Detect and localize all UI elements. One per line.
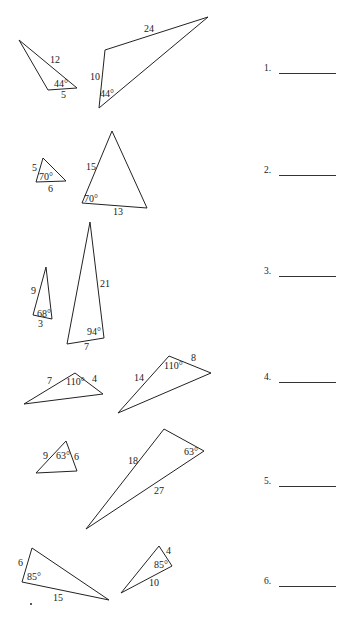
triangle-1a: 1244°5 — [19, 40, 77, 100]
side-length-label: 5 — [32, 162, 37, 173]
problem-number: 6. — [264, 576, 271, 586]
answer-row-5: 5. — [264, 476, 344, 490]
side-length-label: 21 — [100, 278, 110, 289]
side-length-label: 9 — [31, 285, 36, 296]
triangle-figures: 1244°5241044°570°61570°13968°32194°77110… — [0, 0, 352, 621]
side-length-label: 6 — [48, 183, 53, 194]
angle-label: 63° — [56, 450, 70, 461]
angle-label: 85° — [27, 571, 41, 582]
angle-label: 70° — [84, 193, 98, 204]
problem-number: 1. — [264, 63, 271, 73]
side-length-label: 6 — [74, 451, 79, 462]
answer-row-3: 3. — [264, 266, 344, 280]
side-length-label: 10 — [90, 71, 100, 82]
triangle-6b: 485°10 — [121, 545, 172, 593]
triangle-outline — [19, 40, 77, 90]
problem-number: 4. — [264, 372, 271, 382]
answer-row-1: 1. — [264, 63, 344, 77]
angle-label: 85° — [154, 559, 168, 570]
side-length-label: 4 — [166, 545, 171, 556]
side-length-label: 12 — [50, 54, 60, 65]
angle-label: 70° — [39, 171, 53, 182]
problem-number: 5. — [264, 476, 271, 486]
side-length-label: 5 — [61, 89, 66, 100]
side-length-label: 15 — [86, 161, 96, 172]
angle-label: 44° — [100, 88, 114, 99]
answer-row-4: 4. — [264, 372, 344, 386]
triangle-outline — [86, 429, 204, 529]
answer-row-2: 2. — [264, 165, 344, 179]
triangle-4a: 7110°4 — [24, 373, 103, 404]
side-length-label: 7 — [47, 375, 52, 386]
triangle-3b: 2194°7 — [67, 222, 110, 352]
problem-number: 2. — [264, 165, 271, 175]
side-length-label: 13 — [113, 206, 123, 217]
side-length-label: 24 — [144, 23, 154, 34]
triangle-1b: 241044° — [90, 17, 208, 108]
side-length-label: 6 — [18, 557, 23, 568]
answer-row-6: 6. — [264, 576, 344, 590]
answer-blank-4[interactable] — [279, 382, 336, 383]
triangle-5a: 963°6 — [36, 441, 79, 473]
angle-label: 110° — [66, 376, 85, 387]
problem-number: 3. — [264, 266, 271, 276]
side-length-label: 27 — [154, 485, 164, 496]
answer-blank-3[interactable] — [279, 276, 336, 277]
triangle-2a: 570°6 — [32, 158, 66, 194]
side-length-label: 7 — [84, 341, 89, 352]
triangle-4b: 14110°8 — [118, 352, 211, 413]
answer-blank-2[interactable] — [279, 175, 336, 176]
side-length-label: 14 — [134, 372, 144, 383]
side-length-label: 15 — [53, 592, 63, 603]
answer-blank-6[interactable] — [279, 586, 336, 587]
side-length-label: 10 — [149, 577, 159, 588]
side-length-label: 9 — [43, 450, 48, 461]
angle-label: 63° — [184, 446, 198, 457]
side-length-label: 18 — [128, 455, 138, 466]
triangle-3a: 968°3 — [31, 267, 52, 329]
angle-label: 110° — [164, 360, 183, 371]
angle-label: 44° — [54, 78, 68, 89]
triangle-6a: 685°15 — [18, 548, 109, 603]
answer-blank-1[interactable] — [279, 73, 336, 74]
triangle-5b: 1863°27 — [86, 429, 204, 529]
side-length-label: 4 — [92, 373, 97, 384]
answer-blank-5[interactable] — [279, 486, 336, 487]
stray-dot — [30, 603, 32, 605]
side-length-label: 8 — [191, 352, 196, 363]
triangle-2b: 1570°13 — [82, 131, 147, 217]
angle-label: 94° — [87, 326, 101, 337]
side-length-label: 3 — [38, 318, 43, 329]
